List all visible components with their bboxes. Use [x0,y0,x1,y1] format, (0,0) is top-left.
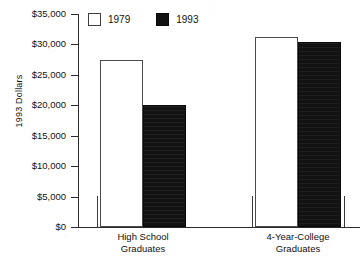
open-square-swatch-icon [88,13,101,26]
category-separator [97,196,98,227]
y-axis-tick-mark [71,166,78,167]
category-label-line: High School [68,231,218,243]
y-axis-tick-mark [71,136,78,137]
y-axis-tick-label: $10,000 [2,161,66,171]
x-axis-line [78,227,360,228]
filled-square-swatch-icon [156,13,169,26]
y-axis-tick-mark [71,197,78,198]
x-axis-category-label: 4-Year-CollegeGraduates [223,231,364,255]
y-axis-tick-label: $0 [2,222,66,232]
bar-chart-figure: 1993 Dollars $0$5,000$10,000$15,000$20,0… [0,0,364,268]
y-axis-tick-label: $35,000 [2,9,66,19]
bar-1979-college [255,37,298,227]
category-label-line: 4-Year-College [223,231,364,243]
y-axis-tick-label: $25,000 [2,70,66,80]
y-axis-tick-label: $30,000 [2,39,66,49]
y-axis-tick-mark [71,14,78,15]
y-axis-tick-mark [71,44,78,45]
y-axis-tick-label: $5,000 [2,192,66,202]
y-axis-tick-mark [71,227,78,228]
bar-1993-high-school [143,105,186,227]
plot-area [78,14,360,227]
bar-1993-college [298,42,341,227]
chart-legend: 1979 1993 [88,13,199,26]
category-label-line: Graduates [223,243,364,255]
bar-1979-high-school [100,60,143,227]
x-axis-category-label: High SchoolGraduates [68,231,218,255]
y-axis-tick-mark [71,75,78,76]
category-label-line: Graduates [68,243,218,255]
category-separator [252,196,253,227]
category-separator [344,196,345,227]
y-axis-tick-label: $15,000 [2,131,66,141]
legend-label-1993: 1993 [176,15,198,25]
y-axis-tick-mark [71,105,78,106]
legend-entry-1979: 1979 [88,13,130,26]
legend-label-1979: 1979 [108,15,130,25]
y-axis-tick-label: $20,000 [2,100,66,110]
legend-entry-1993: 1993 [156,13,198,26]
